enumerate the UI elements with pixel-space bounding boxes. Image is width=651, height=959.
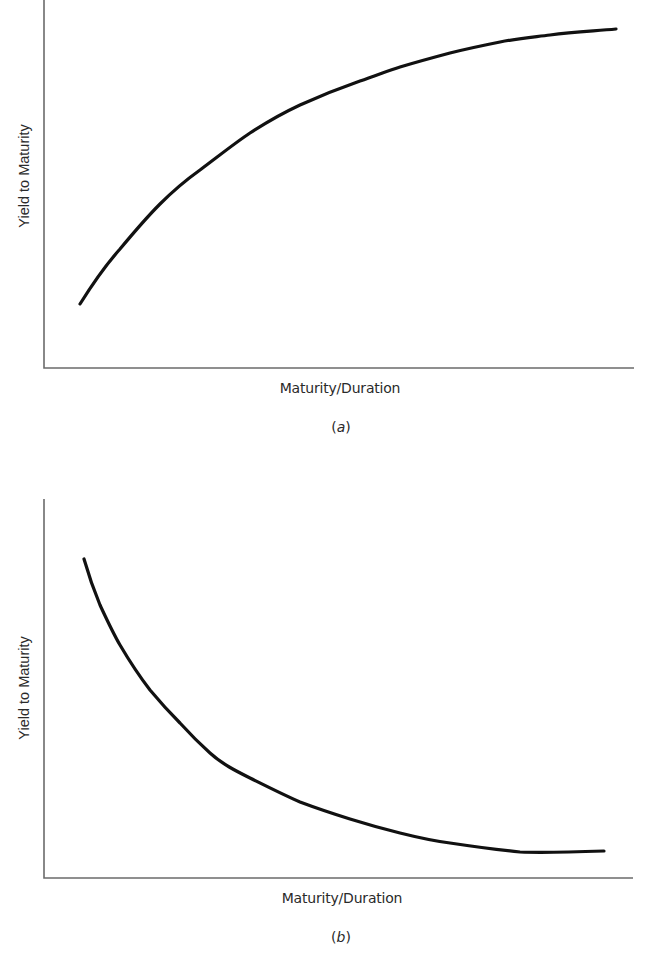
chart-b-axes xyxy=(44,499,633,878)
figure-canvas xyxy=(0,0,651,959)
chart-a-axes xyxy=(44,0,634,368)
chart-b-yield-curve xyxy=(84,559,604,852)
chart-a xyxy=(44,0,634,368)
chart-a-caption: (a) xyxy=(331,419,351,435)
chart-b-x-axis-label: Maturity/Duration xyxy=(282,890,403,906)
chart-b-y-axis-label: Yield to Maturity xyxy=(16,636,32,739)
chart-b-caption-letter: b xyxy=(337,929,346,945)
chart-b-caption: (b) xyxy=(331,929,351,945)
chart-a-y-axis-label: Yield to Maturity xyxy=(16,124,32,227)
chart-a-yield-curve xyxy=(80,29,616,304)
chart-b xyxy=(44,499,633,878)
chart-a-caption-letter: a xyxy=(337,419,346,435)
chart-a-x-axis-label: Maturity/Duration xyxy=(280,380,401,396)
